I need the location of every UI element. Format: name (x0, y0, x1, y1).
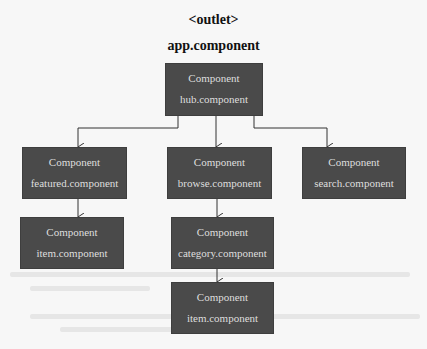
node-type-label: Component (21, 226, 123, 238)
node-category-component: Component category.component (172, 218, 273, 268)
node-name-label: browse.component (168, 177, 271, 189)
node-name-label: hub.component (166, 93, 262, 105)
node-featured-item-component: Component item.component (21, 218, 123, 268)
node-type-label: Component (168, 156, 271, 168)
node-type-label: Component (166, 72, 262, 84)
node-search-component: Component search.component (303, 148, 405, 198)
node-browse-component: Component browse.component (168, 148, 271, 198)
node-featured-component: Component featured.component (23, 148, 126, 198)
node-type-label: Component (172, 226, 273, 238)
node-name-label: featured.component (23, 177, 126, 189)
node-type-label: Component (23, 156, 126, 168)
node-name-label: item.component (21, 247, 123, 259)
edge-hub-featured (78, 115, 178, 147)
edge-hub-search (254, 115, 327, 147)
node-name-label: search.component (303, 177, 405, 189)
node-name-label: category.component (172, 247, 273, 259)
node-type-label: Component (303, 156, 405, 168)
node-hub-component: Component hub.component (166, 64, 262, 115)
node-name-label: item.component (172, 312, 273, 324)
node-type-label: Component (172, 291, 273, 303)
node-category-item-component: Component item.component (172, 283, 273, 333)
